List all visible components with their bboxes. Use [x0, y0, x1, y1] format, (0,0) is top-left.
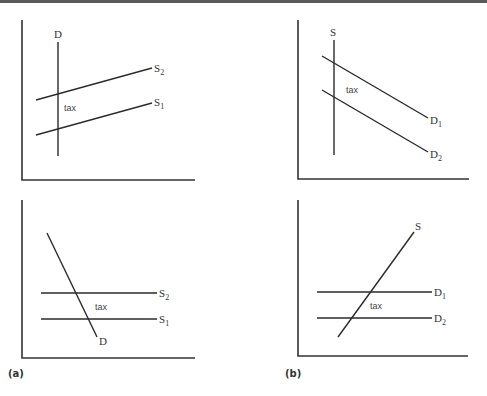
supply-curve-s2 — [36, 68, 152, 100]
label-d2: D2 — [430, 148, 442, 163]
axes — [298, 20, 469, 179]
panel-a-top: D S2 S1 tax — [22, 20, 195, 180]
label-d: D — [99, 335, 107, 347]
demand-curve-d — [47, 233, 97, 337]
axes — [298, 200, 468, 356]
label-s2: S2 — [159, 287, 169, 302]
axes — [22, 200, 195, 358]
tax-label: tax — [370, 301, 383, 311]
label-d2: D2 — [434, 312, 446, 327]
tax-label: tax — [95, 302, 108, 312]
tax-label: tax — [346, 85, 359, 95]
demand-curve-d1 — [322, 56, 428, 118]
panel-b-bottom: S D1 D2 tax — [298, 200, 468, 356]
label-s: S — [415, 220, 421, 232]
supply-curve-s1 — [36, 103, 152, 135]
label-d1: D1 — [430, 114, 442, 129]
label-s1: S1 — [154, 96, 164, 111]
demand-curve-d2 — [322, 90, 428, 152]
supply-curve-s — [338, 232, 414, 337]
label-s2: S2 — [154, 62, 164, 77]
label-d1: D1 — [434, 286, 446, 301]
label-s: S — [330, 26, 336, 38]
axes — [22, 20, 195, 180]
panel-a-bottom: D S2 S1 tax — [22, 200, 195, 358]
panel-label-b: (b) — [285, 368, 301, 379]
panel-b-top: S D1 D2 tax — [298, 20, 469, 179]
tax-incidence-diagram: D S2 S1 tax S D1 D2 tax D S2 S1 tax S D1… — [0, 0, 487, 396]
tax-label: tax — [64, 103, 77, 113]
label-d: D — [54, 28, 62, 40]
label-s1: S1 — [159, 313, 169, 328]
panel-label-a: (a) — [8, 368, 24, 379]
